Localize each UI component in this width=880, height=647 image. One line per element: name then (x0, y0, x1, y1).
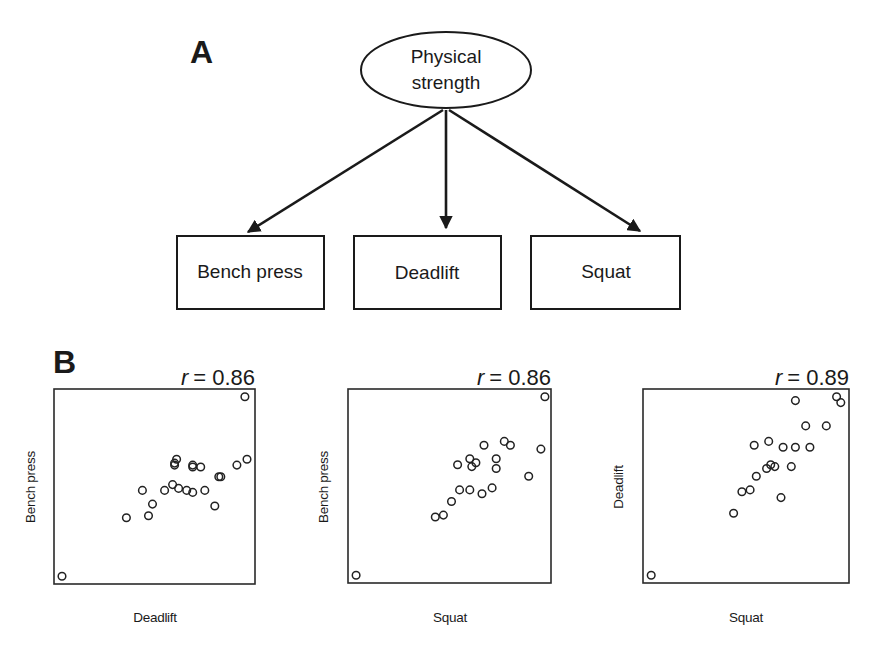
latent-label-line1: Physical (411, 46, 482, 67)
data-point (197, 463, 205, 471)
panel-b-label: B (53, 344, 76, 380)
correlation-label: r= 0.86 (181, 365, 255, 390)
data-point (478, 490, 486, 498)
data-point (161, 487, 169, 495)
data-point (58, 572, 66, 580)
y-axis-label: Deadlift (611, 465, 626, 509)
indicator-squat: Squat (531, 236, 680, 309)
scatter-plot-deadlift-vs-squat: r= 0.89 Squat Deadlift (611, 365, 849, 625)
data-point (488, 484, 496, 492)
data-point (507, 442, 515, 450)
data-point (241, 393, 249, 401)
data-point (466, 486, 474, 494)
latent-ellipse (361, 32, 531, 108)
data-point (233, 461, 241, 469)
data-point (149, 500, 157, 508)
figure: A Physical strength Bench press Deadlift… (0, 0, 880, 647)
scatter-plot-bench-vs-deadlift: r= 0.86 Deadlift Bench press (23, 365, 255, 625)
data-point (823, 422, 831, 430)
data-point (792, 443, 800, 451)
data-point (750, 442, 758, 450)
x-axis-label: Deadlift (133, 610, 177, 625)
data-point (802, 422, 810, 430)
data-points (58, 393, 251, 580)
data-point (432, 513, 440, 521)
latent-label-line2: strength (412, 72, 481, 93)
data-point (779, 443, 787, 451)
indicator-bench-press: Bench press (177, 236, 324, 309)
arrow-to-bench-press (248, 110, 443, 232)
correlation-label: r= 0.86 (477, 365, 551, 390)
data-point (175, 485, 183, 493)
scatter-plot-bench-vs-squat: r= 0.86 Squat Bench press (316, 365, 551, 625)
panel-a-label: A (190, 34, 213, 70)
data-point (537, 445, 545, 453)
data-point (492, 465, 500, 473)
data-point (139, 487, 147, 495)
indicator-label: Squat (581, 261, 631, 282)
data-points (647, 393, 844, 579)
data-point (746, 486, 754, 494)
data-point (777, 494, 785, 502)
plot-frame (348, 389, 551, 583)
y-axis-label: Bench press (23, 451, 38, 523)
data-point (541, 393, 549, 401)
panel-b: B r= 0.86 Deadlift Bench press r= 0.86 S… (23, 344, 849, 625)
data-point (145, 512, 153, 520)
data-point (647, 571, 655, 579)
data-point (211, 502, 219, 510)
plot-frame (643, 389, 849, 583)
data-point (454, 461, 462, 469)
data-point (806, 443, 814, 451)
data-point (480, 442, 488, 450)
x-axis-label: Squat (729, 610, 763, 625)
data-point (730, 509, 738, 517)
indicator-label: Deadlift (395, 262, 460, 283)
data-point (440, 511, 448, 519)
correlation-label: r= 0.89 (775, 365, 849, 390)
indicator-label: Bench press (197, 261, 303, 282)
x-axis-label: Squat (433, 610, 467, 625)
panel-a: A Physical strength Bench press Deadlift… (177, 32, 680, 309)
data-point (448, 498, 456, 506)
indicator-deadlift: Deadlift (354, 236, 501, 309)
latent-node-physical-strength: Physical strength (361, 32, 531, 108)
data-points (352, 393, 548, 579)
data-point (243, 455, 251, 463)
y-axis-label: Bench press (316, 451, 331, 523)
data-point (352, 571, 360, 579)
data-point (738, 488, 746, 496)
data-point (492, 455, 500, 463)
data-point (837, 399, 845, 407)
plot-frame (54, 389, 255, 584)
data-point (753, 473, 761, 481)
data-point (201, 487, 209, 495)
data-point (456, 486, 464, 494)
arrow-to-squat (449, 110, 640, 231)
data-point (123, 514, 131, 522)
data-point (765, 438, 773, 446)
data-point (525, 473, 533, 481)
data-point (792, 397, 800, 405)
data-point (788, 463, 796, 471)
